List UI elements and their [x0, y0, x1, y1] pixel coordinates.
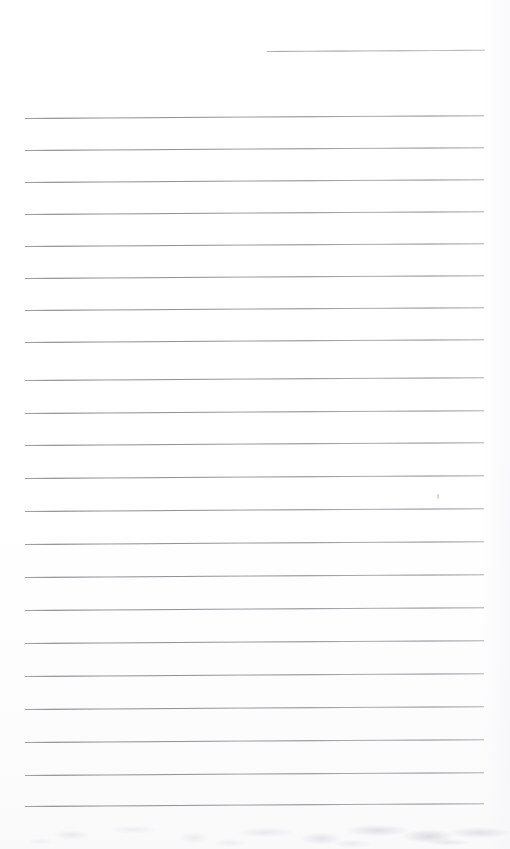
ruled-line — [25, 574, 484, 578]
bottom-scan-noise-artifact — [0, 812, 510, 849]
ruled-line — [25, 339, 484, 343]
ruled-line — [25, 442, 484, 446]
ruled-line — [25, 508, 484, 512]
ruled-line — [25, 803, 484, 807]
ruled-line — [25, 275, 484, 279]
scanned-page — [0, 0, 510, 849]
ruled-line — [25, 377, 484, 381]
ruled-line — [25, 475, 484, 479]
ruled-line — [25, 410, 484, 414]
ruled-line — [25, 179, 484, 183]
ruled-line-partial — [267, 50, 485, 52]
ruled-line — [25, 706, 484, 710]
right-scan-band-artifact — [484, 0, 510, 849]
ruled-line — [25, 772, 484, 776]
ruled-line — [25, 541, 484, 545]
ruled-line — [25, 673, 484, 677]
ruled-line — [25, 739, 484, 743]
ruled-line — [25, 115, 484, 119]
ruled-line — [25, 607, 484, 611]
scan-speck-artifact — [437, 494, 439, 499]
paper-surface — [0, 0, 510, 849]
ruled-line — [25, 640, 484, 644]
ruled-line — [25, 243, 484, 247]
ruled-line — [25, 211, 484, 215]
ruled-line — [25, 147, 484, 151]
ruled-line — [25, 307, 484, 311]
